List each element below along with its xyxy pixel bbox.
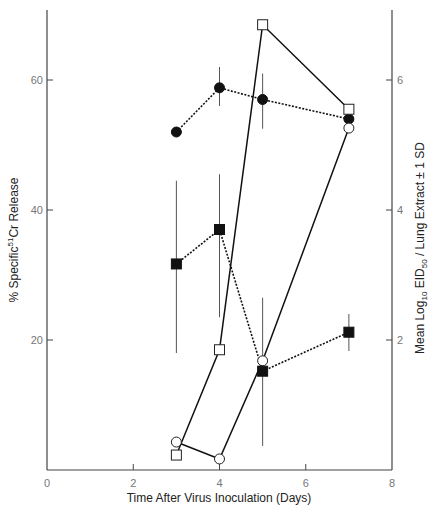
left-y-tick-label: 40 [31,204,43,216]
open-circle-marker [171,437,181,447]
filled-circle-marker [344,114,354,124]
right-axis-title: Mean Log10 EID50 / Lung Extract ± 1 SD [413,142,429,354]
error-bars [176,67,349,446]
chart: 02468204060246 Time After Virus Inoculat… [0,0,435,515]
filled-circle-marker [258,95,268,105]
filled-circle-marker [171,127,181,137]
right-y-tick-label: 2 [397,334,403,346]
open-circle-marker [215,454,225,464]
filled-square-marker [171,259,181,269]
open-square-marker [215,345,225,355]
open-circle-marker [344,123,354,133]
filled-square-marker [258,366,268,376]
right-y-tick-label: 6 [397,74,403,86]
left-y-tick-label: 20 [31,334,43,346]
filled-circle-marker [215,83,225,93]
x-tick-label: 2 [130,477,136,489]
open-square-marker [171,450,181,460]
filled-square-marker [344,327,354,337]
x-tick-label: 8 [389,477,395,489]
left-axis-title: % Specific51Cr Release [6,177,21,302]
x-tick-label: 6 [303,477,309,489]
x-tick-label: 0 [44,477,50,489]
axes: 02468204060246 [31,10,403,489]
series-layer [171,20,354,464]
x-axis-title: Time After Virus Inoculation (Days) [127,491,312,505]
open-square-marker [258,20,268,30]
left-y-tick-label: 60 [31,74,43,86]
filled-square-marker [215,225,225,235]
right-y-tick-label: 4 [397,204,403,216]
x-tick-label: 4 [216,477,222,489]
open-circle-marker [258,356,268,366]
open-square-marker [344,104,354,114]
